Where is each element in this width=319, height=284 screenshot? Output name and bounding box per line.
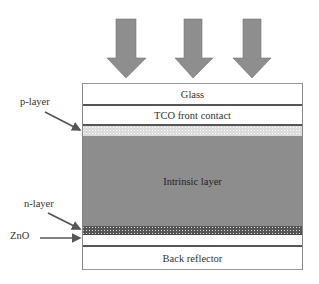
callout-arrows: [0, 0, 319, 284]
n-layer-arrow-icon: [48, 213, 80, 229]
p-layer-arrow-icon: [45, 112, 80, 130]
